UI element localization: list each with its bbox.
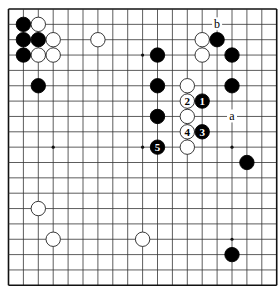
white-stone [46,33,60,47]
white-stone [135,232,149,246]
move-number-label: 5 [155,141,161,153]
black-stone [31,33,45,47]
stones: 21435 [16,17,254,262]
move-number-label: 4 [185,126,191,138]
star-point-icon [141,53,144,56]
white-stone [195,33,209,47]
star-point-icon [230,238,233,241]
white-stone [31,48,45,62]
star-point-icon [230,146,233,149]
white-stone [31,17,45,31]
black-stone [16,48,30,62]
black-stone [240,155,254,169]
white-stone [31,201,45,215]
black-stone [16,17,30,31]
go-board: ab 21435 [0,0,279,296]
black-stone [225,79,239,93]
black-stone [150,109,164,123]
white-stone [46,232,60,246]
marker-label-b: b [214,17,220,31]
move-number-label: 1 [199,95,205,107]
go-board-diagram: ab 21435 [0,0,279,296]
marker-label-a: a [229,109,235,123]
black-stone [150,79,164,93]
black-stone [225,48,239,62]
black-stone [225,247,239,261]
white-stone [91,33,105,47]
black-stone [31,79,45,93]
white-stone [195,48,209,62]
move-number-label: 2 [185,95,191,107]
star-point-icon [52,146,55,149]
white-stone [180,109,194,123]
white-stone [180,140,194,154]
white-stone [180,79,194,93]
black-stone [210,33,224,47]
move-number-label: 3 [199,126,205,138]
star-point-icon [141,146,144,149]
black-stone [16,33,30,47]
black-stone [150,48,164,62]
white-stone [46,48,60,62]
